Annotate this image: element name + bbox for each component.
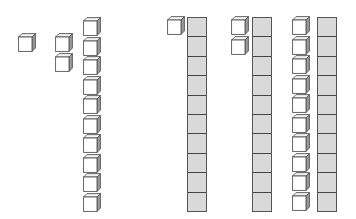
unit-cube-icon <box>55 33 73 52</box>
rod-divider <box>318 192 336 193</box>
unit-cube-icon <box>83 154 101 173</box>
ten-rod <box>187 17 207 212</box>
unit-cube-icon <box>83 17 101 36</box>
rod-divider <box>253 56 271 57</box>
unit-cube-icon <box>292 114 310 133</box>
unit-cube-icon <box>231 36 249 55</box>
unit-cube-icon <box>83 56 101 75</box>
rod-divider <box>318 133 336 134</box>
rod-divider <box>253 172 271 173</box>
rod-divider <box>188 56 206 57</box>
unit-cube-icon <box>83 173 101 192</box>
unit-cube-icon <box>292 16 310 35</box>
unit-cube-icon <box>83 37 101 56</box>
ten-rod <box>317 17 337 212</box>
unit-cube-icon <box>292 55 310 74</box>
rod-divider <box>188 172 206 173</box>
unit-cube-icon <box>83 134 101 153</box>
rod-divider <box>188 192 206 193</box>
unit-cube-icon <box>231 16 249 35</box>
unit-cube-icon <box>292 36 310 55</box>
rod-divider <box>188 95 206 96</box>
rod-divider <box>318 95 336 96</box>
unit-cube-icon <box>83 193 101 212</box>
unit-cube-icon <box>292 75 310 94</box>
rod-divider <box>253 192 271 193</box>
unit-cube-icon <box>292 192 310 211</box>
rod-divider <box>188 36 206 37</box>
unit-cube-icon <box>292 153 310 172</box>
unit-cube-icon <box>55 53 73 72</box>
rod-divider <box>318 172 336 173</box>
rod-divider <box>318 153 336 154</box>
rod-divider <box>318 56 336 57</box>
unit-cube-icon <box>292 133 310 152</box>
unit-cube-icon <box>167 16 185 35</box>
unit-cube-icon <box>292 94 310 113</box>
unit-cube-icon <box>83 76 101 95</box>
ten-rod <box>252 17 272 212</box>
rod-divider <box>188 114 206 115</box>
rod-divider <box>318 75 336 76</box>
unit-cube-icon <box>18 33 36 52</box>
rod-divider <box>253 114 271 115</box>
rod-divider <box>318 114 336 115</box>
unit-cube-icon <box>292 172 310 191</box>
rod-divider <box>253 95 271 96</box>
rod-divider <box>188 133 206 134</box>
rod-divider <box>253 153 271 154</box>
rod-divider <box>253 75 271 76</box>
rod-divider <box>188 75 206 76</box>
rod-divider <box>253 133 271 134</box>
unit-cube-icon <box>83 115 101 134</box>
rod-divider <box>188 153 206 154</box>
rod-divider <box>318 36 336 37</box>
unit-cube-icon <box>83 95 101 114</box>
rod-divider <box>253 36 271 37</box>
